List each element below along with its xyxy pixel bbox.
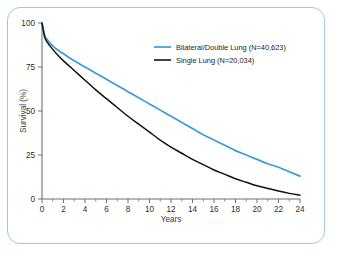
x-tick-label: 16: [209, 205, 219, 214]
x-tick-label: 2: [61, 205, 66, 214]
legend-label-1: Bilateral/Double Lung (N=40,623): [176, 43, 286, 52]
survival-curve-plot: 0246810121416182022240255075100 Years Su…: [0, 0, 337, 254]
chart-figure: 0246810121416182022240255075100 Years Su…: [0, 0, 337, 254]
x-tick-label: 0: [40, 205, 45, 214]
x-tick-label: 4: [83, 205, 88, 214]
legend-label-2: Single Lung (N=20,034): [176, 56, 254, 65]
x-tick-label: 14: [188, 205, 198, 214]
x-tick-label: 12: [166, 205, 176, 214]
x-tick-label: 22: [274, 205, 284, 214]
x-tick-label: 8: [126, 205, 131, 214]
x-tick-label: 10: [145, 205, 155, 214]
y-tick-label: 75: [26, 63, 36, 72]
y-tick-label: 100: [21, 19, 35, 28]
y-tick-label: 25: [26, 151, 36, 160]
x-tick-label: 20: [252, 205, 262, 214]
y-tick-label: 0: [30, 195, 35, 204]
x-tick-label: 24: [295, 205, 305, 214]
y-axis-title: Survival (%): [19, 89, 28, 133]
x-tick-label: 18: [231, 205, 241, 214]
chart-legend: Bilateral/Double Lung (N=40,623)Single L…: [154, 43, 286, 65]
x-axis-title: Years: [161, 215, 182, 224]
x-tick-label: 6: [104, 205, 109, 214]
